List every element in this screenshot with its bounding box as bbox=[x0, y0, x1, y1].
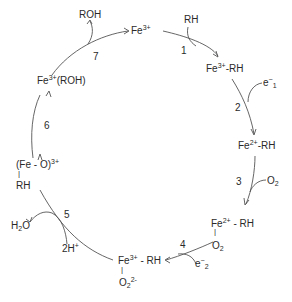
species-fe2-o2-ligand: O2 bbox=[212, 241, 224, 251]
species-feo-rh-ligand: RH bbox=[16, 181, 30, 191]
step-4-input: e−2 bbox=[195, 259, 209, 269]
step-5-output: H2O bbox=[11, 221, 30, 231]
roh-arrowhead bbox=[87, 20, 92, 24]
step-5-input: 2H+ bbox=[62, 244, 79, 254]
arc-step-1 bbox=[163, 31, 218, 56]
step-7-number: 7 bbox=[93, 52, 99, 62]
h2o-exchange-arrow bbox=[30, 212, 67, 244]
arc-step-6 bbox=[32, 95, 40, 158]
species-fe3-o2-ligand: O22- bbox=[119, 278, 137, 288]
step-7-output: ROH bbox=[79, 10, 101, 20]
species-feo-rh: (Fe - O)3+ bbox=[16, 160, 59, 170]
arc-step-7 bbox=[52, 31, 128, 75]
e1-input-arrow bbox=[248, 83, 262, 102]
step-3-input: O2 bbox=[267, 176, 279, 186]
step-3-number: 3 bbox=[236, 177, 242, 187]
roh-output-arrow bbox=[88, 21, 92, 44]
step-6-number: 6 bbox=[44, 121, 50, 131]
arrowhead-6 bbox=[46, 91, 51, 97]
species-fe3-roh: Fe3+(ROH) bbox=[37, 76, 86, 86]
species-fe3: Fe3+ bbox=[131, 26, 151, 36]
species-fe2-rh-o2: Fe2+ - RH bbox=[211, 219, 254, 229]
arc-step-3 bbox=[246, 156, 255, 204]
step-2-input: e−1 bbox=[263, 78, 277, 88]
bond-line: | bbox=[18, 170, 20, 178]
catalytic-cycle-diagram: Fe3+ RH 1 Fe3+-RH e−1 2 Fe2+-RH O2 3 Fe2… bbox=[0, 0, 292, 302]
arrowhead-1 bbox=[213, 51, 218, 57]
bond-line: | bbox=[121, 266, 123, 274]
step-4-number: 4 bbox=[180, 240, 186, 250]
species-fe2-rh: Fe2+-RH bbox=[238, 141, 275, 151]
step-5-number: 5 bbox=[64, 210, 70, 220]
arc-step-4 bbox=[166, 242, 213, 260]
rh-input-arrow bbox=[187, 27, 196, 46]
species-fe3-rh: Fe3+-RH bbox=[206, 64, 243, 74]
species-fe3-rh-o2: Fe3+ - RH bbox=[118, 256, 161, 266]
step-1-input: RH bbox=[184, 15, 198, 25]
bond-line: | bbox=[214, 228, 216, 236]
step-2-number: 2 bbox=[235, 103, 241, 113]
step-1-number: 1 bbox=[181, 46, 187, 56]
